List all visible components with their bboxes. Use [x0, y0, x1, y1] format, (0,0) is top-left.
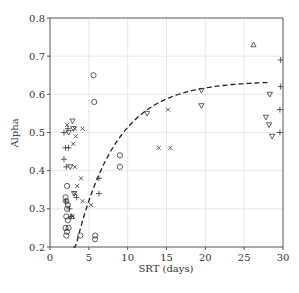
x-tick-label: 5 — [86, 252, 92, 263]
cross-marker — [71, 142, 75, 146]
plus-marker — [63, 145, 69, 151]
triangle-down-marker — [199, 104, 204, 109]
plus-marker — [96, 175, 102, 181]
plus-marker — [96, 191, 102, 197]
plus-marker — [61, 156, 67, 162]
cross-marker — [81, 127, 85, 131]
cross-marker — [75, 184, 79, 188]
grid-lines — [50, 18, 283, 247]
cross-marker — [79, 176, 83, 180]
triangle-down-marker — [263, 115, 268, 120]
triangle-down-marker — [70, 119, 75, 124]
cross-marker — [157, 146, 161, 150]
circle-marker — [117, 153, 122, 158]
circle-marker — [64, 183, 69, 188]
plus-marker — [277, 107, 283, 113]
plus-marker — [66, 206, 72, 212]
x-tick-label: 0 — [47, 252, 53, 263]
y-tick-label: 0.6 — [29, 89, 45, 100]
circle-marker — [78, 233, 83, 238]
plus-marker — [277, 130, 283, 136]
cross-marker — [89, 203, 93, 207]
circle-marker — [92, 237, 97, 242]
scatter-chart: 0510152025300.20.30.40.50.60.70.8 SRT (d… — [0, 0, 299, 293]
circle-marker — [117, 164, 122, 169]
circle-marker — [91, 73, 96, 78]
triangle-up-marker — [251, 42, 256, 47]
x-tick-label: 20 — [199, 252, 212, 263]
fit-curve-dashed — [73, 83, 267, 248]
fit-curve-layer — [73, 83, 267, 248]
cross-marker — [65, 123, 69, 127]
x-tick-label: 30 — [277, 252, 290, 263]
y-tick-label: 0.3 — [29, 203, 45, 214]
cross-marker — [81, 199, 85, 203]
chart-container: 0510152025300.20.30.40.50.60.70.8 SRT (d… — [0, 0, 299, 293]
x-tick-label: 15 — [160, 252, 173, 263]
y-tick-label: 0.7 — [29, 51, 45, 62]
y-tick-label: 0.2 — [29, 242, 45, 253]
data-markers — [61, 42, 284, 242]
cross-marker — [74, 134, 78, 138]
triangle-down-marker — [270, 134, 275, 139]
cross-marker — [168, 146, 172, 150]
y-tick-label: 0.5 — [29, 127, 45, 138]
circle-marker — [64, 233, 69, 238]
x-tick-label: 25 — [238, 252, 251, 263]
x-axis-title: SRT (days) — [139, 263, 194, 274]
cross-marker — [73, 165, 77, 169]
y-tick-label: 0.4 — [29, 165, 45, 176]
axes — [47, 18, 283, 250]
triangle-down-marker — [144, 111, 149, 116]
x-tick-label: 10 — [121, 252, 134, 263]
y-axis-title: Alpha — [9, 118, 20, 148]
y-tick-label: 0.8 — [29, 13, 45, 24]
circle-marker — [92, 99, 97, 104]
triangle-down-marker — [266, 123, 271, 128]
